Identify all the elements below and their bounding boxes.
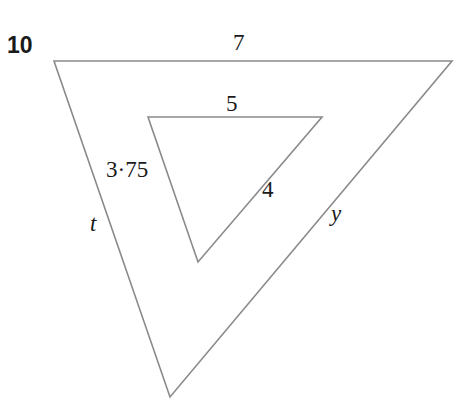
outer-triangle — [54, 61, 452, 397]
inner-top-side-label: 5 — [226, 92, 238, 115]
outer-left-side-label: t — [90, 212, 96, 235]
outer-right-side-label: y — [331, 202, 341, 225]
inner-triangle — [148, 117, 322, 262]
triangles-diagram — [0, 0, 457, 399]
inner-left-side-label: 3·75 — [106, 158, 148, 181]
similar-triangles-figure: 10 7 5 3·75 4 t y — [0, 0, 457, 399]
outer-top-side-label: 7 — [233, 31, 245, 54]
inner-right-side-label: 4 — [262, 178, 274, 201]
